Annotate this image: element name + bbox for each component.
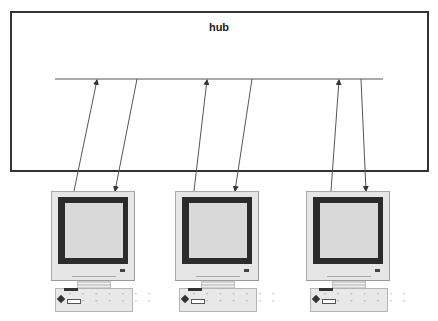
monitor-chin (327, 276, 371, 277)
power-led-icon (375, 269, 380, 272)
computer-2: ˘ ˘ ˘ ˘ ˘ ˘ ˘ ˘ ˘ ˘ ˘ ˘ ˘ (175, 191, 265, 316)
uplink-arrow (194, 80, 207, 191)
downlink-arrow (115, 79, 137, 191)
downlink-arrow (235, 79, 252, 191)
screen-bezel (182, 197, 252, 264)
uplink-arrow (74, 80, 97, 191)
screen-bezel (58, 197, 128, 264)
keyboard-keys: ˘ ˘ ˘ ˘ ˘ ˘ ˘ ˘ ˘ ˘ ˘ ˘ ˘ (323, 292, 384, 308)
keyboard-cable (64, 288, 78, 291)
monitor-chin (72, 276, 116, 277)
monitor-chin (196, 276, 240, 277)
uplink-arrow (331, 80, 339, 191)
monitor-icon (306, 191, 390, 281)
keyboard-icon: ˘ ˘ ˘ ˘ ˘ ˘ ˘ ˘ ˘ ˘ ˘ ˘ ˘ (310, 288, 388, 312)
keyboard-cable (319, 288, 333, 291)
computer-3: ˘ ˘ ˘ ˘ ˘ ˘ ˘ ˘ ˘ ˘ ˘ ˘ ˘ (306, 191, 396, 316)
monitor-icon (175, 191, 259, 281)
keyboard-icon: ˘ ˘ ˘ ˘ ˘ ˘ ˘ ˘ ˘ ˘ ˘ ˘ ˘ (55, 288, 133, 312)
screen (320, 203, 378, 258)
screen (189, 203, 247, 258)
keyboard-cable (188, 288, 202, 291)
keyboard-keys: ˘ ˘ ˘ ˘ ˘ ˘ ˘ ˘ ˘ ˘ ˘ ˘ ˘ (68, 292, 129, 308)
diamond-icon (57, 295, 65, 303)
power-led-icon (244, 269, 249, 272)
diamond-icon (312, 295, 320, 303)
keyboard-icon: ˘ ˘ ˘ ˘ ˘ ˘ ˘ ˘ ˘ ˘ ˘ ˘ ˘ (179, 288, 257, 312)
keyboard-keys: ˘ ˘ ˘ ˘ ˘ ˘ ˘ ˘ ˘ ˘ ˘ ˘ ˘ (192, 292, 253, 308)
diamond-icon (181, 295, 189, 303)
screen-bezel (313, 197, 383, 264)
screen (65, 203, 123, 258)
monitor-icon (51, 191, 135, 281)
power-led-icon (120, 269, 125, 272)
downlink-arrow (361, 79, 366, 191)
computer-1: ˘ ˘ ˘ ˘ ˘ ˘ ˘ ˘ ˘ ˘ ˘ ˘ ˘ (51, 191, 141, 316)
